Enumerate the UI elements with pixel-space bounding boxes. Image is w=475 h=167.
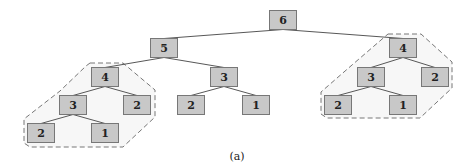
tree-node: 3 bbox=[211, 68, 238, 87]
tree-node: 3 bbox=[358, 68, 385, 87]
tree-node: 1 bbox=[92, 124, 119, 143]
figure-caption: (a) bbox=[229, 150, 244, 163]
tree-node: 4 bbox=[92, 68, 119, 87]
node-label: 3 bbox=[69, 99, 77, 112]
node-label: 2 bbox=[37, 127, 45, 140]
node-label: 3 bbox=[367, 71, 375, 84]
node-label: 4 bbox=[101, 71, 109, 84]
node-label: 1 bbox=[399, 99, 407, 112]
tree-diagram: 654332212143221 (a) bbox=[0, 0, 475, 167]
tree-node: 2 bbox=[325, 96, 352, 115]
node-label: 2 bbox=[431, 71, 439, 84]
node-label: 4 bbox=[399, 42, 407, 55]
tree-edge bbox=[164, 30, 283, 39]
tree-node: 2 bbox=[28, 124, 55, 143]
node-label: 5 bbox=[160, 42, 168, 55]
node-label: 6 bbox=[279, 14, 287, 27]
tree-node: 6 bbox=[270, 11, 297, 30]
tree-edge bbox=[224, 87, 256, 96]
tree-edge bbox=[164, 58, 224, 68]
node-label: 2 bbox=[133, 99, 141, 112]
tree-node: 2 bbox=[422, 68, 449, 87]
node-label: 1 bbox=[252, 99, 260, 112]
tree-edge bbox=[191, 87, 224, 96]
tree-edge bbox=[283, 30, 403, 39]
node-label: 1 bbox=[101, 127, 109, 140]
node-label: 2 bbox=[187, 99, 195, 112]
tree-node: 5 bbox=[151, 39, 178, 58]
tree-node: 2 bbox=[124, 96, 151, 115]
tree-node: 3 bbox=[60, 96, 87, 115]
tree-node: 1 bbox=[243, 96, 270, 115]
tree-node: 1 bbox=[390, 96, 417, 115]
node-label: 2 bbox=[334, 99, 342, 112]
node-label: 3 bbox=[220, 71, 228, 84]
tree-node: 2 bbox=[178, 96, 205, 115]
tree-edge bbox=[105, 58, 164, 68]
tree-node: 4 bbox=[390, 39, 417, 58]
